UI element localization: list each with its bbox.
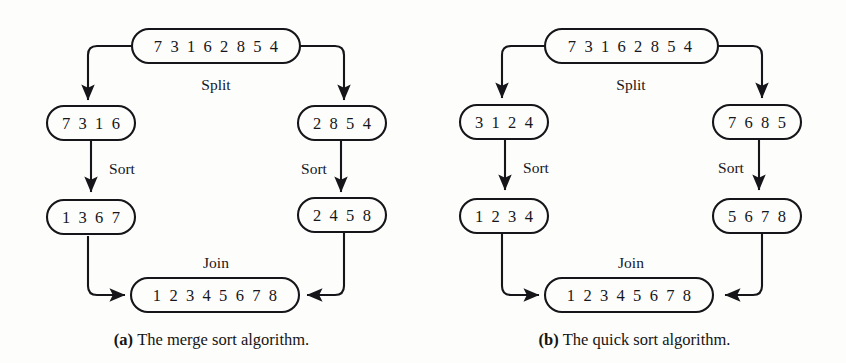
- figure-container: 7 3 1 6 2 8 5 4 7 3 1 6 2 8 5 4 1 3 6 7 …: [0, 0, 846, 363]
- node-right-sorted-label: 2 4 5 8: [313, 206, 373, 225]
- node-root-label: 7 3 1 6 2 8 5 4: [154, 37, 280, 56]
- node-right-sorted-label: 5 6 7 8: [728, 207, 788, 226]
- node-joined-label: 1 2 3 4 5 6 7 8: [153, 286, 279, 305]
- edge-split-left: [88, 46, 132, 100]
- caption-text: The merge sort algorithm.: [137, 330, 309, 349]
- edge-join-left: [88, 236, 125, 295]
- caption-marker: (b): [538, 330, 558, 349]
- caption-text: The quick sort algorithm.: [563, 330, 731, 349]
- edge-label-split: Split: [201, 76, 231, 93]
- node-left-unsorted-label: 7 3 1 6: [62, 114, 122, 133]
- edge-label-sort-right: Sort: [301, 160, 328, 177]
- edge-label-join: Join: [618, 254, 644, 271]
- caption-quick-sort: (b) The quick sort algorithm.: [423, 330, 846, 350]
- node-left-unsorted-label: 3 1 2 4: [475, 113, 535, 132]
- node-joined-label: 1 2 3 4 5 6 7 8: [567, 286, 693, 305]
- edge-label-sort-left: Sort: [523, 159, 550, 176]
- caption-merge-sort: (a) The merge sort algorithm.: [0, 330, 423, 350]
- edge-label-join: Join: [203, 254, 229, 271]
- edge-join-left: [502, 234, 539, 295]
- edge-label-sort-left: Sort: [109, 160, 136, 177]
- panel-quick-sort: 7 3 1 6 2 8 5 4 3 1 2 4 7 6 8 5 1 2 3 4 …: [423, 0, 846, 363]
- node-right-unsorted-label: 7 6 8 5: [728, 113, 788, 132]
- edge-join-right: [307, 233, 344, 295]
- edge-split-right: [718, 46, 762, 98]
- edge-join-right: [725, 234, 762, 295]
- caption-marker: (a): [114, 330, 133, 349]
- merge-sort-diagram: 7 3 1 6 2 8 5 4 7 3 1 6 2 8 5 4 1 3 6 7 …: [0, 0, 423, 325]
- node-root-label: 7 3 1 6 2 8 5 4: [568, 37, 694, 56]
- edge-label-split: Split: [616, 76, 646, 93]
- edge-split-right: [300, 46, 344, 100]
- node-left-sorted-label: 1 2 3 4: [475, 207, 535, 226]
- quick-sort-diagram: 7 3 1 6 2 8 5 4 3 1 2 4 7 6 8 5 1 2 3 4 …: [423, 0, 846, 325]
- panel-merge-sort: 7 3 1 6 2 8 5 4 7 3 1 6 2 8 5 4 1 3 6 7 …: [0, 0, 423, 363]
- node-right-unsorted-label: 2 8 5 4: [313, 114, 373, 133]
- node-left-sorted-label: 1 3 6 7: [62, 208, 122, 227]
- edge-split-left: [502, 46, 545, 98]
- edge-label-sort-right: Sort: [718, 159, 745, 176]
